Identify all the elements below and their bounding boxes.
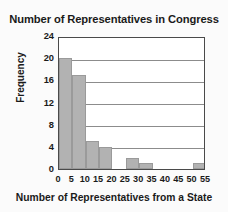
histogram-bar	[139, 163, 152, 169]
gridline	[59, 60, 204, 61]
histogram-bar	[99, 147, 112, 169]
histogram-bar	[72, 75, 85, 169]
histogram-chart: Number of Representatives in Congress Fr…	[0, 0, 228, 212]
chart-title: Number of Representatives in Congress	[0, 13, 228, 25]
y-tick-label: 24	[32, 32, 54, 41]
y-tick-label: 0	[32, 165, 54, 174]
histogram-bar	[126, 158, 139, 169]
x-axis-title: Number of Representatives from a State	[0, 192, 228, 203]
x-axis-tick-labels: 0510152025303540455055	[58, 174, 205, 186]
y-tick-label: 4	[32, 143, 54, 152]
plot-inner	[59, 38, 204, 169]
plot-area	[58, 37, 205, 170]
y-axis-tick-labels: 04812162024	[32, 37, 54, 170]
y-tick-label: 16	[32, 76, 54, 85]
x-tick-label: 55	[195, 174, 215, 184]
histogram-bar	[193, 163, 204, 169]
y-tick-label: 8	[32, 121, 54, 130]
histogram-bar	[86, 141, 99, 169]
y-axis-title: Frequency	[15, 45, 26, 111]
y-tick-label: 12	[32, 99, 54, 108]
y-tick-label: 20	[32, 54, 54, 63]
histogram-bar	[59, 58, 72, 169]
